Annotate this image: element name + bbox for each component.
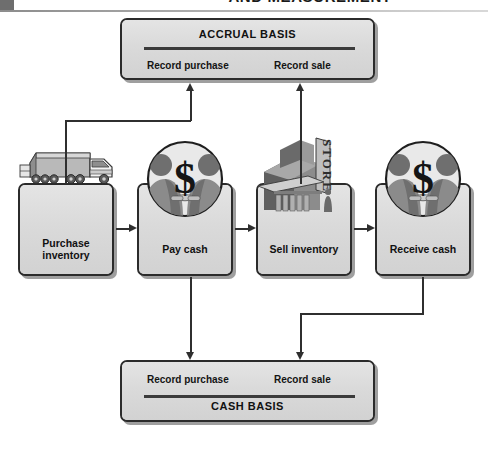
cash-basis-title: CASH BASIS xyxy=(122,400,373,412)
accrual-wire-purchase-vertical-right xyxy=(190,90,192,121)
accrual-wire-purchase-vertical-left xyxy=(65,120,67,184)
cash-wire-receive-vertical-right xyxy=(422,277,424,314)
cash-arrow-record-sale xyxy=(296,352,304,360)
accrual-wire-purchase-horizontal xyxy=(65,120,191,122)
accrual-record-purchase-label: Record purchase xyxy=(147,60,229,71)
cash-divider xyxy=(144,395,355,398)
cash-wire-receive-horizontal xyxy=(300,313,424,315)
flow-arrow-purchase-to-paycash xyxy=(129,224,137,232)
panel-surface xyxy=(377,185,469,274)
accrual-arrow-record-sale xyxy=(296,83,304,91)
accrual-wire-sell-vertical xyxy=(300,90,302,184)
diagram-canvas: AND MEASUREMENT ACCRUAL BASIS Record pur… xyxy=(0,0,488,449)
panel-surface xyxy=(258,185,350,274)
cash-basis-panel: Record purchase Record sale CASH BASIS xyxy=(120,360,375,422)
header-divider xyxy=(0,10,488,12)
step-label: Receive cash xyxy=(377,243,469,255)
cash-wire-receive-vertical-left xyxy=(300,313,302,353)
cash-record-purchase-label: Record purchase xyxy=(147,374,229,385)
accrual-divider xyxy=(144,47,355,50)
step-label: Sell inventory xyxy=(258,243,350,255)
accrual-entries: Record purchase Record sale xyxy=(122,60,373,74)
page-corner-block xyxy=(0,0,14,10)
page-title: AND MEASUREMENT xyxy=(150,0,470,4)
accrual-arrow-record-purchase xyxy=(186,83,194,91)
cash-arrow-record-purchase xyxy=(186,352,194,360)
accrual-basis-title: ACCRUAL BASIS xyxy=(122,28,373,40)
step-label: Pay cash xyxy=(139,243,231,255)
cash-entries: Record purchase Record sale xyxy=(122,374,373,388)
step-purchase-inventory: Purchase inventory xyxy=(18,183,114,276)
step-receive-cash: Receive cash xyxy=(375,183,471,276)
accrual-basis-panel: ACCRUAL BASIS Record purchase Record sal… xyxy=(120,18,375,80)
flow-arrow-paycash-to-sell xyxy=(248,224,256,232)
cash-record-sale-label: Record sale xyxy=(274,374,331,385)
step-pay-cash: Pay cash xyxy=(137,183,233,276)
flow-arrow-sell-to-receive xyxy=(367,224,375,232)
accrual-record-sale-label: Record sale xyxy=(274,60,331,71)
step-label: Purchase inventory xyxy=(20,237,112,261)
panel-surface xyxy=(139,185,231,274)
step-sell-inventory: Sell inventory xyxy=(256,183,352,276)
cash-wire-paycash-vertical xyxy=(190,277,192,353)
